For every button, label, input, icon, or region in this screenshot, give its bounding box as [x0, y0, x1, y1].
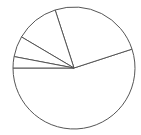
pie-chart	[0, 0, 141, 135]
pie-slices	[13, 7, 135, 129]
